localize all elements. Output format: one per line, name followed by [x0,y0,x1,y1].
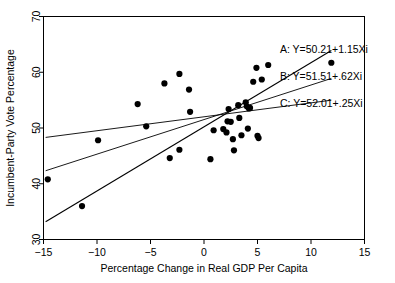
scatter-plot-figure: −15−10−5051015 3040506070 A: Y=50.21+1.1… [0,0,395,283]
y-tick-label: 50 [30,122,42,134]
data-point [45,176,51,182]
x-axis-label: Percentage Change in Real GDP Per Capita [100,262,307,274]
data-point [265,62,271,68]
x-tick-label: −5 [145,246,157,258]
y-axis-label: Incumbent-Party Vote Percentage [4,49,16,207]
data-point [207,156,213,162]
data-point [328,60,334,66]
y-tick-label: 70 [30,11,42,23]
data-point [223,129,229,135]
y-tick-label: 40 [30,178,42,190]
equation-label-B: B: Y=51.51+.62Xi [280,70,362,82]
data-point [186,86,192,92]
data-point [176,71,182,77]
x-tick-label: 5 [255,246,261,258]
data-point [79,203,85,209]
data-point [167,155,173,161]
data-point [245,125,251,131]
x-tick-label: 15 [359,246,371,258]
data-point [226,106,232,112]
y-tick-label: 60 [30,66,42,78]
data-point [235,102,241,108]
equation-label-C: C: Y=52.01+.25Xi [280,97,363,109]
data-point [143,123,149,129]
x-tick-label: 10 [305,246,317,258]
equation-annotations: A: Y=50.21+1.15XiB: Y=51.51+.62XiC: Y=52… [280,43,368,110]
y-tick-label: 30 [30,234,42,246]
data-point [250,79,256,85]
x-tick-label: −15 [35,246,53,258]
data-point [230,136,236,142]
data-point [236,115,242,121]
data-point [247,105,253,111]
data-point [259,76,265,82]
x-tick-label: 0 [201,246,207,258]
data-point [211,127,217,133]
x-tick-label: −10 [88,246,106,258]
y-axis-tick-labels: 3040506070 [30,11,42,246]
data-point [231,147,237,153]
data-point [228,119,234,125]
data-point-series [45,60,335,209]
data-point [238,132,244,138]
plot-canvas: −15−10−5051015 3040506070 A: Y=50.21+1.1… [0,0,395,283]
equation-label-A: A: Y=50.21+1.15Xi [280,43,368,55]
data-point [95,137,101,143]
data-point [161,80,167,86]
x-axis-tick-labels: −15−10−5051015 [35,246,371,258]
data-point [255,135,261,141]
data-point [253,65,259,71]
data-point [135,101,141,107]
data-point [187,109,193,115]
data-point [176,147,182,153]
x-axis-ticks [44,240,365,245]
